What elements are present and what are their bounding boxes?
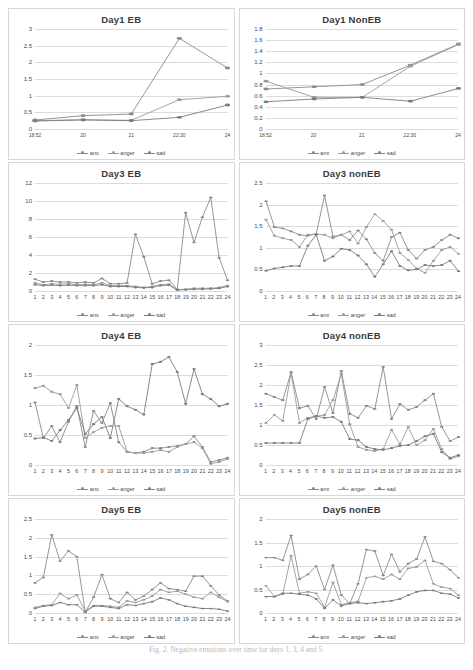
- x-axis-tick-label: 18: [174, 468, 180, 474]
- data-point-anx: [67, 550, 70, 552]
- legend-item-anx[interactable]: anx: [77, 312, 99, 318]
- data-point-anx: [92, 410, 95, 412]
- legend-item-anx[interactable]: anx: [308, 150, 330, 156]
- data-point-anx: [50, 280, 53, 282]
- legend-item-anger[interactable]: anger: [338, 634, 365, 640]
- data-point-anx: [67, 281, 70, 283]
- data-point-anger: [75, 384, 78, 386]
- legend-item-anger[interactable]: anger: [338, 150, 365, 156]
- data-point-anx: [50, 425, 53, 427]
- data-point-sad: [192, 607, 195, 609]
- data-point-sad: [109, 286, 112, 288]
- data-point-anger: [42, 385, 45, 387]
- data-point-anx: [192, 241, 195, 243]
- data-point-sad: [67, 604, 70, 606]
- y-axis-tick-label: 10: [25, 198, 32, 204]
- legend-label: anx: [320, 150, 329, 156]
- legend-marker-icon: [108, 635, 119, 639]
- data-point-anger: [226, 601, 229, 603]
- legend-item-anger[interactable]: anger: [338, 312, 365, 318]
- series-lines: [266, 183, 459, 291]
- data-point-sad: [431, 433, 434, 435]
- plot-area: 00.511.52: [35, 345, 228, 465]
- data-point-anger: [389, 429, 392, 431]
- data-point-anx: [381, 260, 384, 262]
- x-axis-tick-label: 12: [124, 294, 130, 300]
- x-axis-tick-label: 8: [92, 294, 95, 300]
- legend-item-anx[interactable]: anx: [77, 150, 99, 156]
- data-point-anx: [297, 407, 300, 409]
- data-point-sad: [373, 602, 376, 604]
- legend-label: sad: [156, 312, 165, 318]
- legend-item-anx[interactable]: anx: [308, 312, 330, 318]
- data-point-anx: [297, 234, 300, 236]
- data-point-sad: [440, 451, 443, 453]
- legend-item-sad[interactable]: sad: [144, 312, 166, 318]
- data-point-sad: [440, 592, 443, 594]
- data-point-anx: [58, 281, 61, 283]
- legend-item-anx[interactable]: anx: [308, 486, 330, 492]
- data-point-sad: [42, 285, 45, 287]
- legend-item-anger[interactable]: anger: [108, 150, 135, 156]
- legend-item-sad[interactable]: sad: [144, 486, 166, 492]
- data-point-sad: [67, 284, 70, 286]
- legend-item-anger[interactable]: anger: [338, 486, 365, 492]
- x-axis-tick-label: 19: [413, 294, 419, 300]
- legend-item-anger[interactable]: anger: [108, 486, 135, 492]
- data-point-anger: [455, 43, 460, 46]
- data-point-sad: [117, 608, 120, 610]
- data-point-sad: [58, 602, 61, 604]
- y-axis-tick-label: 0.5: [24, 591, 32, 597]
- data-point-anger: [167, 591, 170, 593]
- legend-marker-icon: [308, 151, 319, 155]
- data-point-anx: [80, 114, 85, 117]
- data-point-anger: [314, 592, 317, 594]
- data-point-sad: [167, 356, 170, 358]
- y-axis-tick-label: 1.5: [254, 402, 262, 408]
- legend-item-anx[interactable]: anx: [77, 634, 99, 640]
- data-point-anx: [58, 441, 61, 443]
- data-point-sad: [339, 248, 342, 250]
- data-point-sad: [109, 607, 112, 609]
- data-point-anger: [281, 237, 284, 239]
- gridline: [35, 465, 228, 466]
- x-axis-tick-label: 23: [216, 468, 222, 474]
- data-point-anx: [331, 412, 334, 414]
- data-point-sad: [142, 287, 145, 289]
- y-axis-tick-label: 0.5: [254, 587, 262, 593]
- legend-item-sad[interactable]: sad: [144, 634, 166, 640]
- x-axis-tick-label: 20: [422, 468, 428, 474]
- legend-item-sad[interactable]: sad: [374, 312, 396, 318]
- data-point-anger: [142, 452, 145, 454]
- legend-item-anger[interactable]: anger: [108, 312, 135, 318]
- x-axis-tick-label: 13: [363, 294, 369, 300]
- data-point-sad: [201, 393, 204, 395]
- x-axis-tick-label: 7: [84, 294, 87, 300]
- chart-panel-day1-eb: Day1 EB 00.511.522.53 18:52202122:3024 a…: [8, 8, 235, 160]
- data-point-anx: [406, 249, 409, 251]
- x-axis-tick-label: 20: [191, 468, 197, 474]
- x-axis-tick-label: 17: [396, 294, 402, 300]
- data-point-anx: [100, 574, 103, 576]
- legend-item-anx[interactable]: anx: [308, 634, 330, 640]
- series-lines: [266, 345, 459, 465]
- data-point-anx: [373, 408, 376, 410]
- data-point-anger: [331, 399, 334, 401]
- data-point-sad: [297, 593, 300, 595]
- legend-item-anx[interactable]: anx: [77, 486, 99, 492]
- data-point-anx: [167, 588, 170, 590]
- series-line-anx: [35, 535, 228, 612]
- data-point-sad: [80, 119, 85, 122]
- series-lines: [35, 345, 228, 465]
- legend-item-sad[interactable]: sad: [374, 634, 396, 640]
- data-point-sad: [431, 265, 434, 267]
- x-axis-tick-label: 10: [338, 294, 344, 300]
- data-point-anger: [431, 260, 434, 262]
- legend-item-sad[interactable]: sad: [374, 150, 396, 156]
- legend-item-sad[interactable]: sad: [374, 486, 396, 492]
- x-axis-tick-label: 1: [264, 468, 267, 474]
- legend-item-sad[interactable]: sad: [144, 150, 166, 156]
- data-point-sad: [217, 287, 220, 289]
- data-point-anger: [398, 578, 401, 580]
- legend-item-anger[interactable]: anger: [108, 634, 135, 640]
